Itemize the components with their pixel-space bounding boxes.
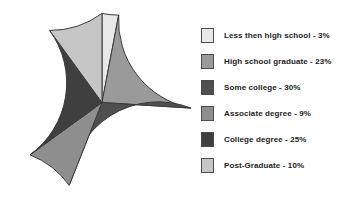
legend-item-label: Some college - 30% [224,83,301,92]
chart-legend: Less then high school - 3% High school g… [196,22,362,188]
legend-swatch-icon [201,28,214,43]
legend-item-less-then-high-school[interactable]: Less then high school - 3% [196,22,362,48]
legend-swatch-icon [201,158,214,173]
legend-item-high-school-graduate[interactable]: High school graduate - 23% [196,48,362,74]
pie-chart-plot-area [12,12,192,193]
legend-swatch-icon [201,106,214,121]
legend-item-college-degree[interactable]: College degree - 25% [196,126,362,152]
legend-item-label: Post-Graduate - 10% [224,161,304,170]
pie-slice-group [30,14,191,186]
legend-swatch-icon [201,132,214,147]
legend-item-some-college[interactable]: Some college - 30% [196,74,362,100]
pie-chart-svg [12,12,192,193]
legend-item-label: Less then high school - 3% [224,31,330,40]
pie-chart-figure: Less then high school - 3% High school g… [0,0,362,206]
legend-item-label: High school graduate - 23% [224,57,332,66]
legend-swatch-icon [201,80,214,95]
legend-item-post-graduate[interactable]: Post-Graduate - 10% [196,152,362,178]
legend-item-associate-degree[interactable]: Associate degree - 9% [196,100,362,126]
legend-swatch-icon [201,54,214,69]
legend-item-label: College degree - 25% [224,135,306,144]
legend-item-label: Associate degree - 9% [224,109,311,118]
